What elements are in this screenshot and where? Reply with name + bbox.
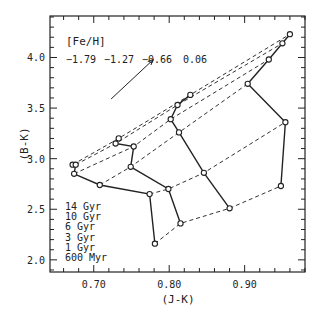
x-axis-label: (J-K) [161,293,194,306]
data-point-marker [166,186,171,191]
data-point-marker [287,32,292,37]
age-label: 600 Myr [65,252,107,263]
y-tick-label: 4.0 [27,52,45,63]
data-point-marker [116,136,121,141]
metallicity-label: −1.27 [104,54,134,65]
x-tick-label: 0.70 [82,279,106,290]
data-point-marker [152,241,157,246]
data-point-marker [72,171,77,176]
y-tick-label: 3.5 [27,103,45,114]
data-point-marker [73,162,78,167]
color-color-diagram: 0.700.800.902.02.53.03.54.0 (J-K) (B-K) … [0,0,322,315]
data-point-marker [175,102,180,107]
isochrone-lines [73,34,290,244]
data-point-marker [188,92,193,97]
metallicity-track-line [116,138,181,223]
y-tick-label: 2.5 [27,204,45,215]
isochrone-line [150,122,286,194]
chart-canvas: 0.700.800.902.02.53.03.54.0 (J-K) (B-K) … [0,0,322,315]
data-point-marker [97,182,102,187]
metallicity-label: 0.06 [183,54,207,65]
isochrone-line [100,84,248,185]
data-point-marker [147,192,152,197]
x-tick-label: 0.80 [157,279,181,290]
data-point-marker [113,141,118,146]
metallicity-label: −1.79 [66,54,96,65]
y-tick-label: 2.0 [27,255,45,266]
metallicity-label: −0.66 [142,54,172,65]
x-tick-label: 0.90 [233,279,257,290]
data-point-marker [168,117,173,122]
data-point-marker [278,183,283,188]
data-point-marker [176,130,181,135]
data-point-marker [280,41,285,46]
age-labels: 14 Gyr10 Gyr6 Gyr3 Gyr1 Gyr600 Myr [65,201,107,263]
data-point-marker [227,206,232,211]
y-axis-label: (B-K) [18,127,31,160]
metallicity-arrow-icon [111,60,153,99]
data-point-marker [245,81,250,86]
data-point-marker [131,144,136,149]
data-point-marker [283,120,288,125]
metallicity-tracks [73,34,290,244]
metallicity-labels: −1.79−1.27−0.660.06 [66,54,207,65]
data-point-marker [201,170,206,175]
data-point-marker [178,221,183,226]
data-point-marker [128,164,133,169]
isochrone-line [155,186,281,244]
arrow-shaft [111,60,153,99]
legend-title: [Fe/H] [66,35,106,48]
data-point-marker [266,57,271,62]
metallicity-track-line [171,95,230,208]
